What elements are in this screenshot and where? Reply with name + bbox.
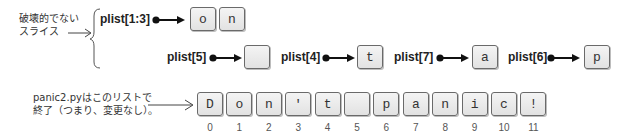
- list-index: 9: [462, 122, 488, 133]
- list-cell: o: [226, 92, 252, 116]
- pointer-arrow-icon: [209, 53, 243, 63]
- list-index: 11: [520, 122, 546, 133]
- list-index: 7: [403, 122, 429, 133]
- note-line: 破壊的でない: [19, 12, 79, 25]
- slice-label: plist[6]: [508, 50, 547, 64]
- list-cell: i: [462, 92, 488, 116]
- pointer-arrow-icon: [152, 15, 186, 25]
- list-cell: n: [432, 92, 458, 116]
- list-cell: t: [315, 92, 341, 116]
- pointer-arrow-icon: [436, 53, 470, 63]
- pointer-arrow-icon: [322, 53, 356, 63]
- slice-label: plist[4]: [281, 50, 320, 64]
- list-index: 0: [197, 122, 223, 133]
- list-cell: [244, 45, 270, 69]
- note-line: panic2.pyはこのリストで: [33, 91, 158, 104]
- list-cell: !: [520, 92, 546, 116]
- slice-label: plist[5]: [167, 50, 206, 64]
- list-cell: [344, 92, 370, 116]
- list-cell: D: [197, 92, 223, 116]
- slice-label: plist[7]: [394, 50, 433, 64]
- list-cell: ': [285, 92, 311, 116]
- list-cell: a: [472, 45, 498, 69]
- note-line: 終了（つまり、変更なし）。: [33, 104, 158, 117]
- list-index: 2: [256, 122, 282, 133]
- list-cell: n: [219, 7, 245, 31]
- list-index: 4: [315, 122, 341, 133]
- list-cell: t: [357, 45, 383, 69]
- list-index: 8: [432, 122, 458, 133]
- list-cell: o: [190, 7, 216, 31]
- final-list-note: panic2.pyはこのリストで 終了（つまり、変更なし）。: [33, 91, 158, 117]
- list-cell: p: [584, 45, 610, 69]
- list-cell: p: [373, 92, 399, 116]
- list-index: 10: [491, 122, 517, 133]
- arrow-icon: [148, 99, 194, 111]
- list-cell: c: [491, 92, 517, 116]
- list-cell: n: [256, 92, 282, 116]
- list-index: 1: [226, 122, 252, 133]
- list-index: 3: [285, 122, 311, 133]
- slice-label: plist[1:3]: [100, 12, 150, 26]
- list-index: 5: [344, 122, 370, 133]
- list-index: 6: [373, 122, 399, 133]
- list-cell: a: [403, 92, 429, 116]
- pointer-arrow-icon: [547, 53, 581, 63]
